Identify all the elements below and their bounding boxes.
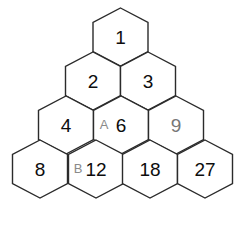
- hex-cell-value-9: 9: [171, 115, 182, 136]
- hex-cell-value-3: 3: [143, 71, 154, 92]
- vertex-label-a: A: [100, 117, 109, 132]
- hex-cell-value-4: 4: [61, 115, 72, 136]
- hex-cell-value-12: 12: [85, 159, 106, 180]
- hex-cell-value-8: 8: [35, 159, 46, 180]
- hex-cell-value-6: 6: [116, 115, 127, 136]
- vertex-label-b: B: [74, 161, 83, 176]
- hex-cell-value-1: 1: [115, 27, 126, 48]
- hexagon-number-triangle-figure: 1234698121827 AB: [0, 0, 245, 241]
- hexagon-triangle-canvas: 1234698121827 AB: [0, 0, 245, 241]
- hex-cell-value-18: 18: [139, 159, 160, 180]
- hex-cell-value-27: 27: [194, 159, 215, 180]
- hex-cell-value-2: 2: [88, 71, 99, 92]
